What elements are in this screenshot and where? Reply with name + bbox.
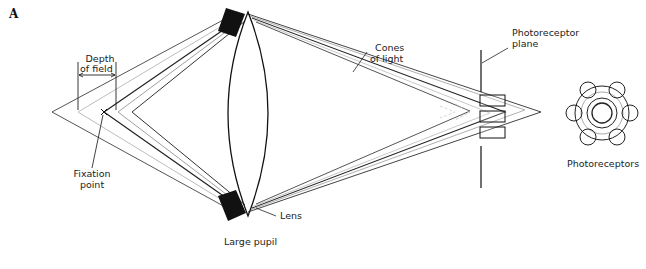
- depth-of-field-diagram: A Depth of field Fixation point Cones of…: [0, 0, 646, 269]
- receptor-boxes: [480, 95, 505, 138]
- cones-leader: [353, 52, 367, 72]
- panel-label: A: [9, 7, 18, 21]
- lens-shape: [228, 12, 268, 216]
- cones-label-line1: Cones: [370, 42, 404, 53]
- cones-label-line2: of light: [370, 53, 404, 64]
- fixation-point-label: Fixation point: [68, 168, 116, 190]
- fixation-label-line1: Fixation: [68, 168, 116, 179]
- large-pupil-label: Large pupil: [224, 236, 277, 247]
- photoreceptor-plane-label: Photoreceptor plane: [512, 27, 579, 49]
- lens-leader: [256, 208, 276, 216]
- cones-of-light-label: Cones of light: [370, 42, 404, 64]
- fixation-label-line2: point: [68, 179, 116, 190]
- depth-of-field-label-line2: of field: [80, 63, 113, 74]
- plane-label-line2: plane: [512, 38, 579, 49]
- plane-leader: [482, 48, 508, 63]
- photoreceptor-cluster: [566, 82, 638, 145]
- plane-label-line1: Photoreceptor: [512, 27, 579, 38]
- lens-label: Lens: [280, 210, 302, 221]
- photoreceptors-label: Photoreceptors: [567, 158, 639, 169]
